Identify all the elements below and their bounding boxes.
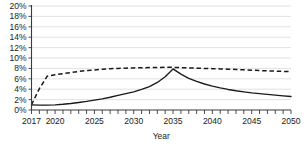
y-tick-label: 0% (14, 105, 27, 115)
x-tick-label: 2020 (46, 116, 65, 126)
series-line-dashed (32, 67, 292, 104)
x-tick-label: 2030 (124, 116, 143, 126)
gridlines (32, 6, 292, 100)
y-tick-label: 18% (9, 11, 26, 21)
y-tick-label: 4% (14, 84, 27, 94)
y-tick-label: 2% (14, 95, 27, 105)
x-tick-label: 2050 (282, 116, 301, 126)
chart-container: 20%18%16%14%12%10%8%6%4%2%0% 20172020202… (0, 0, 304, 144)
y-tick-label: 20% (9, 1, 26, 11)
x-axis-title: Year (153, 131, 170, 141)
x-axis-tick-marks (32, 110, 292, 114)
y-axis-tick-labels: 20%18%16%14%12%10%8%6%4%2%0% (9, 1, 26, 115)
y-tick-label: 8% (14, 63, 27, 73)
y-tick-label: 10% (9, 53, 26, 63)
x-tick-label: 2025 (85, 116, 104, 126)
x-tick-label: 2040 (203, 116, 222, 126)
x-tick-label: 2045 (242, 116, 261, 126)
y-tick-label: 6% (14, 74, 27, 84)
y-tick-label: 16% (9, 22, 26, 32)
x-tick-label: 2017 (22, 116, 41, 126)
x-tick-label: 2035 (164, 116, 183, 126)
y-tick-label: 14% (9, 32, 26, 42)
x-axis-tick-labels: 20172020202520302035204020452050 (22, 116, 301, 126)
y-tick-label: 12% (9, 43, 26, 53)
chart-plot-area: 20%18%16%14%12%10%8%6%4%2%0% 20172020202… (0, 0, 304, 144)
